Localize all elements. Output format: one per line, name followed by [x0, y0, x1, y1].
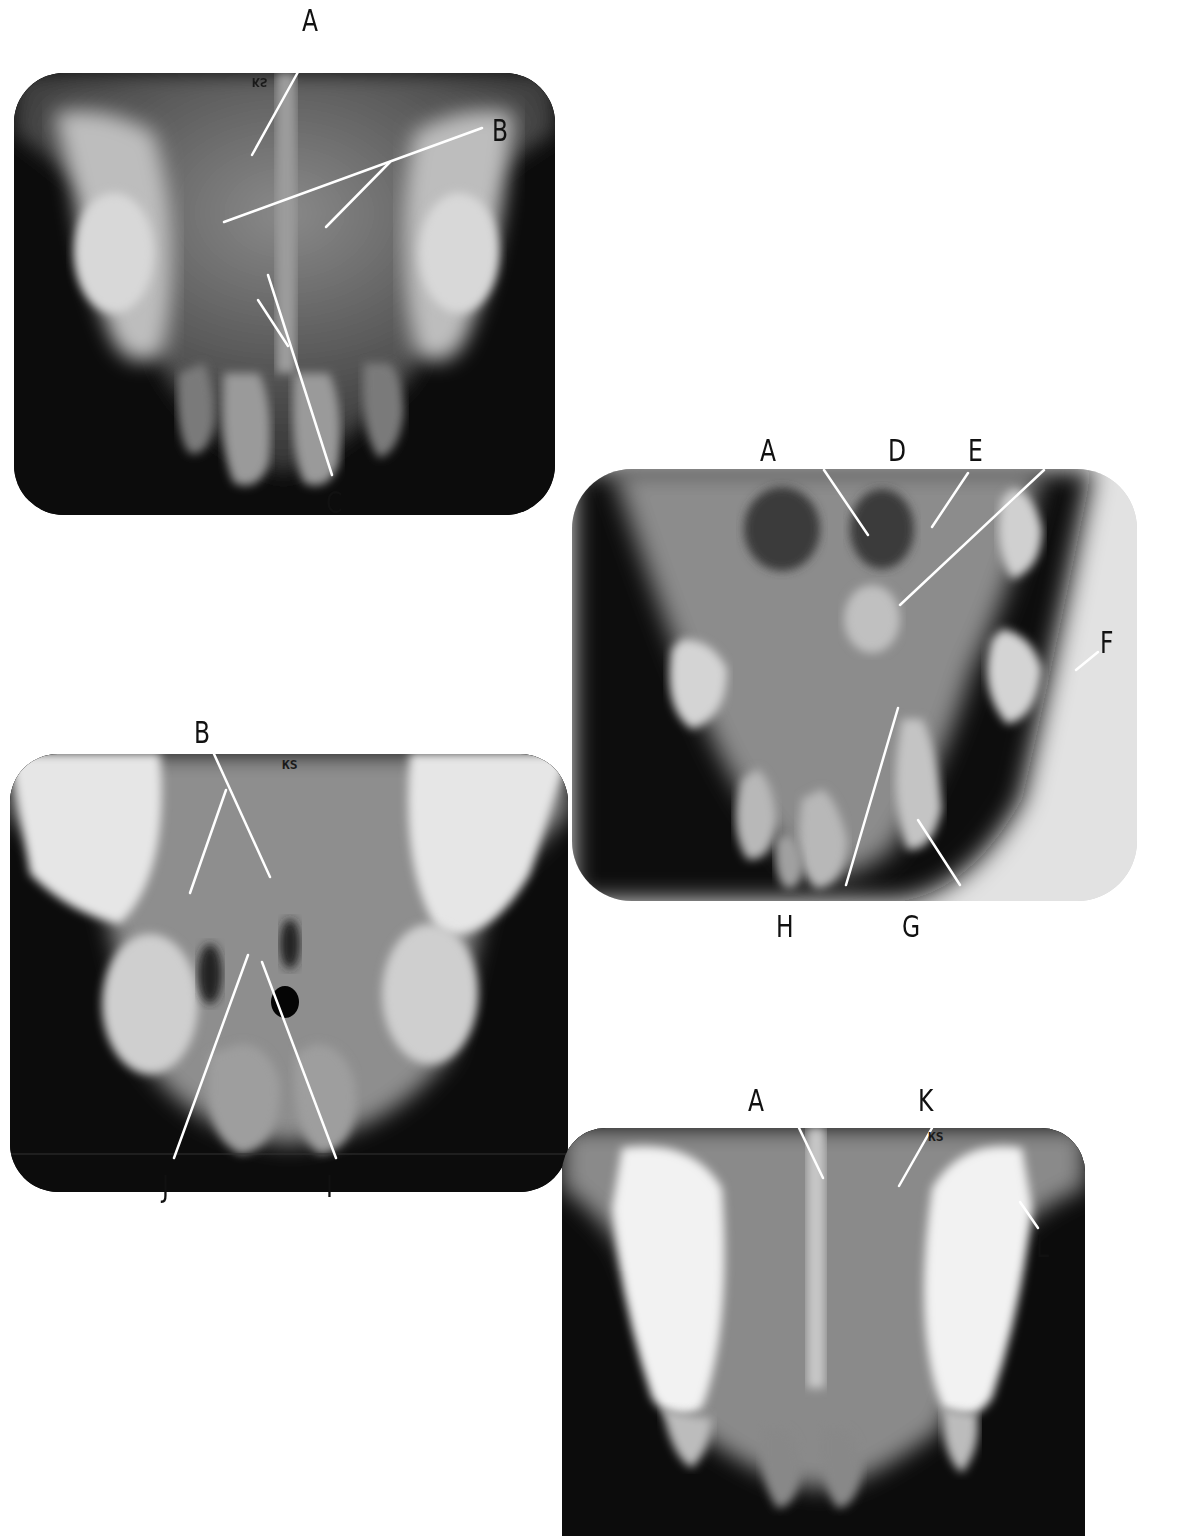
- label-l-panel-4: L: [1036, 1232, 1049, 1262]
- label-c-panel-1: C: [326, 488, 342, 518]
- radiograph-image-2: [572, 469, 1137, 901]
- film-marker-ks-panel-3: KS: [282, 758, 298, 771]
- label-d-panel-2: D: [888, 436, 906, 466]
- label-h-panel-2: H: [776, 912, 794, 942]
- label-b-panel-3: B: [194, 718, 210, 748]
- label-e-panel-2: E: [968, 436, 983, 466]
- film-marker-ks-panel-1: KS: [252, 76, 268, 89]
- label-k-panel-4: K: [918, 1086, 933, 1116]
- label-j-panel-3: J: [162, 1172, 169, 1202]
- radiograph-panel-1: [14, 73, 555, 515]
- label-a-panel-4: A: [748, 1086, 764, 1116]
- radiograph-image-3: [10, 754, 568, 1192]
- radiograph-panel-3: [10, 754, 568, 1192]
- label-f-panel-2: F: [1100, 628, 1113, 658]
- radiograph-panel-4: [562, 1128, 1085, 1536]
- label-b-panel-1: B: [492, 116, 508, 146]
- label-a-panel-2: A: [760, 436, 776, 466]
- label-i-panel-3: I: [326, 1172, 333, 1202]
- radiograph-image-4: [562, 1128, 1085, 1536]
- radiograph-image-1: [14, 73, 555, 515]
- film-marker-ks-panel-4: KS: [928, 1130, 944, 1143]
- label-a-panel-1: A: [302, 6, 318, 36]
- label-g-panel-2: G: [902, 912, 920, 942]
- radiograph-panel-2: [572, 469, 1137, 901]
